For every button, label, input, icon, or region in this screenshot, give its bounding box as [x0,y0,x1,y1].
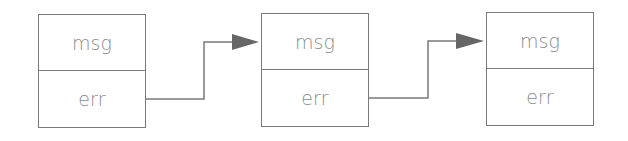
arrowhead-icon [456,33,484,49]
edge-node2-to-node3 [369,33,484,98]
arrowhead-icon [232,34,259,50]
edge-node1-to-node2 [146,34,259,99]
connector-layer [0,0,628,141]
